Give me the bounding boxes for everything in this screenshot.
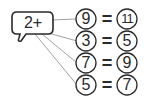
output-value-1: 11 [117,9,137,29]
output-value-4: 7 [117,75,137,95]
connector-row-1 [52,19,76,20]
input-value-3: 7 [76,53,96,73]
equals-sign-1: = [100,9,114,29]
output-value-2: 5 [117,31,137,51]
connector-row-2 [48,33,77,41]
equals-sign-3: = [100,53,114,73]
input-value-4: 5 [76,75,96,95]
bubble-label: 2+ [14,13,52,33]
input-value-2: 3 [76,31,96,51]
connector-row-4 [35,34,77,85]
output-value-3: 9 [117,53,137,73]
equals-sign-2: = [100,31,114,51]
input-value-1: 9 [76,9,96,29]
equals-sign-4: = [100,75,114,95]
